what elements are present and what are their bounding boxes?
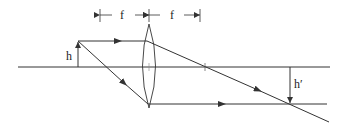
focal-label-left: f <box>120 8 124 22</box>
ray-diagram: f f h h′ <box>0 0 349 129</box>
focal-length-bracket <box>100 9 200 22</box>
focal-label-right: f <box>170 8 174 22</box>
image-height-label: h′ <box>294 77 303 91</box>
object-height-label: h <box>66 49 72 63</box>
ray-parallel <box>78 41 329 122</box>
